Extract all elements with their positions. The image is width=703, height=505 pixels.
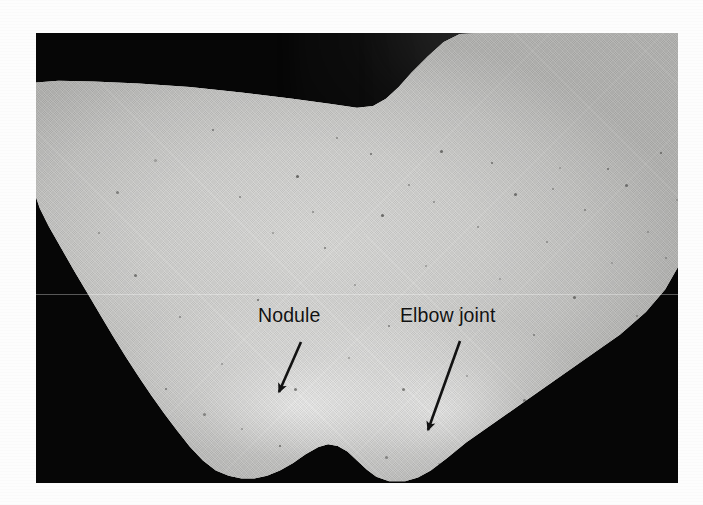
- annotation-layer: Nodule Elbow joint: [36, 33, 678, 483]
- nodule-arrow: [279, 342, 301, 392]
- annotation-label-nodule: Nodule: [258, 304, 320, 326]
- annotation-arrows: [36, 33, 678, 483]
- photograph-frame: Nodule Elbow joint: [36, 33, 678, 483]
- elbow-joint-arrow: [428, 341, 460, 430]
- photo-figure: Nodule Elbow joint: [36, 33, 678, 483]
- annotation-label-elbow-joint: Elbow joint: [400, 304, 495, 326]
